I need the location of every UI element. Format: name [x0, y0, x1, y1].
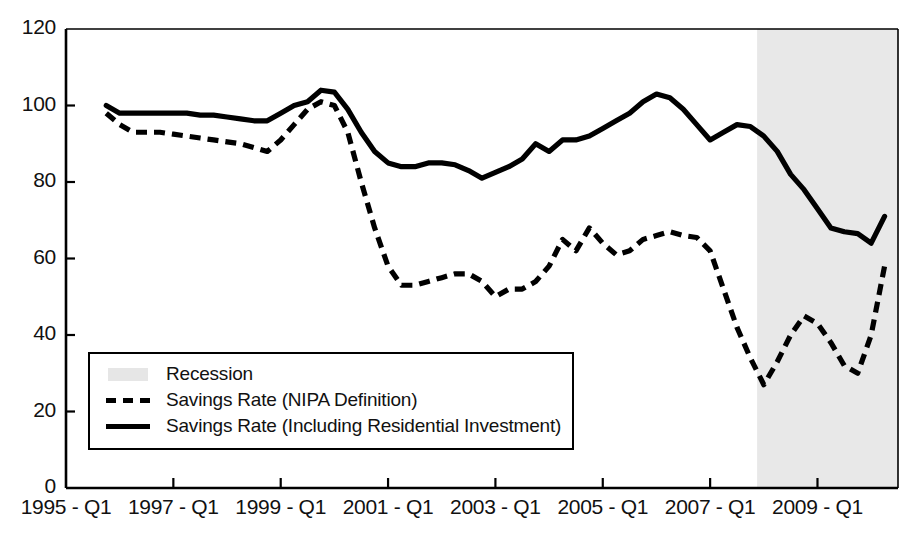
x-tick-label: 2005 - Q1 — [547, 495, 659, 519]
y-tick-label: 40 — [4, 321, 56, 345]
recession-swatch-icon — [100, 361, 156, 387]
solid-line-icon — [100, 413, 156, 439]
x-tick-label: 2009 - Q1 — [761, 495, 873, 519]
legend-label-recession: Recession — [156, 363, 253, 385]
x-tick-label: 1995 - Q1 — [10, 495, 122, 519]
x-tick-label: 2001 - Q1 — [332, 495, 444, 519]
legend-label-nipa: Savings Rate (NIPA Definition) — [156, 389, 417, 411]
y-tick-label: 60 — [4, 245, 56, 269]
y-tick-label: 80 — [4, 168, 56, 192]
legend-item-recession: Recession — [100, 361, 558, 387]
x-tick-label: 2007 - Q1 — [654, 495, 766, 519]
x-tick-label: 2003 - Q1 — [439, 495, 551, 519]
y-tick-label: 100 — [4, 92, 56, 116]
y-tick-label: 120 — [4, 15, 56, 39]
x-tick-label: 1999 - Q1 — [225, 495, 337, 519]
dashed-line-icon — [100, 387, 156, 413]
recession-shading-layer — [757, 29, 898, 488]
legend-label-residential: Savings Rate (Including Residential Inve… — [156, 415, 561, 437]
y-tick-label: 20 — [4, 398, 56, 422]
chart-legend: Recession Savings Rate (NIPA Definition)… — [88, 352, 574, 450]
x-tick-label: 1997 - Q1 — [117, 495, 229, 519]
savings-rate-chart: 020406080100120 1995 - Q11997 - Q11999 -… — [0, 0, 920, 535]
legend-item-nipa: Savings Rate (NIPA Definition) — [100, 387, 558, 413]
chart-plot-area — [0, 0, 920, 535]
legend-item-residential: Savings Rate (Including Residential Inve… — [100, 413, 558, 439]
recession-band — [757, 29, 898, 488]
